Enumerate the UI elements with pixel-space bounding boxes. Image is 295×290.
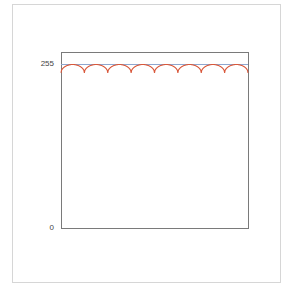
plot-area-border (62, 53, 249, 229)
chart-plot (0, 0, 295, 290)
data-series-curve (61, 65, 248, 73)
